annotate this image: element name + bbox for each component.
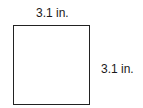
- top-side-length-label: 3.1 in.: [36, 6, 69, 20]
- right-side-length-label: 3.1 in.: [101, 62, 134, 76]
- square-shape: [13, 25, 90, 105]
